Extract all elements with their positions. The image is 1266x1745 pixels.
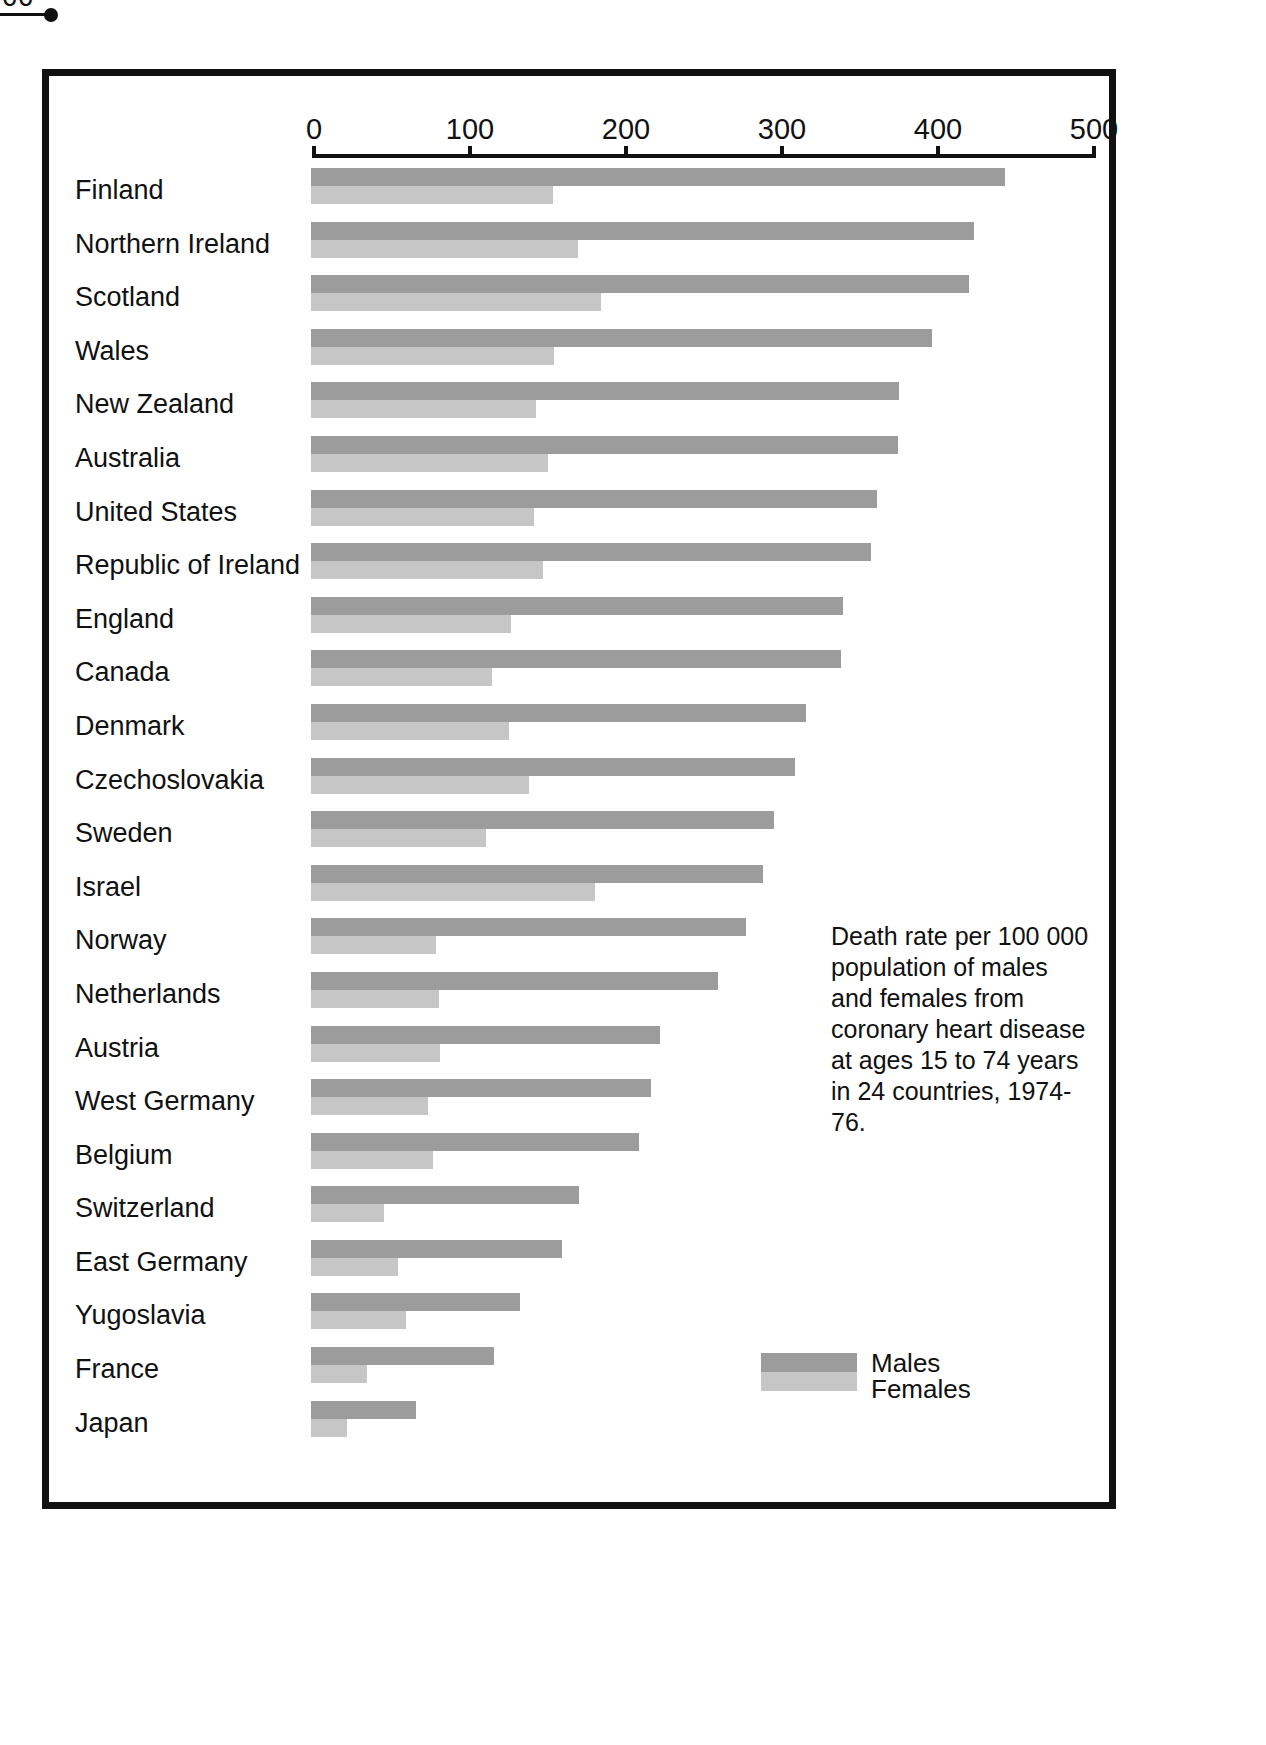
category-label: New Zealand (75, 388, 303, 420)
x-axis-tick (312, 146, 316, 158)
x-axis-tick-label: 100 (446, 113, 494, 146)
bar-females (311, 990, 439, 1008)
bar-females (311, 615, 511, 633)
bar-group (311, 1184, 1109, 1238)
chart-row: Switzerland (49, 1184, 1109, 1238)
bar-females (311, 400, 536, 418)
category-label: Finland (75, 174, 303, 206)
category-label: Belgium (75, 1139, 303, 1171)
bar-males (311, 222, 974, 240)
category-label: Netherlands (75, 978, 303, 1010)
bar-males (311, 972, 718, 990)
bar-chart: 0100200300400500 FinlandNorthern Ireland… (49, 76, 1109, 1502)
bar-females (311, 454, 548, 472)
chart-row: Sweden (49, 809, 1109, 863)
category-label: Norway (75, 924, 303, 956)
bar-males (311, 918, 746, 936)
x-axis-tick (780, 146, 784, 158)
bar-males (311, 436, 898, 454)
bar-females (311, 722, 509, 740)
chart-rows: FinlandNorthern IrelandScotlandWalesNew … (49, 166, 1109, 1502)
x-axis-tick-label: 300 (758, 113, 806, 146)
bar-males (311, 650, 841, 668)
bar-females (311, 1044, 440, 1062)
category-label: England (75, 603, 303, 635)
bar-males (311, 1240, 562, 1258)
figure-frame: 0100200300400500 FinlandNorthern Ireland… (42, 69, 1116, 1509)
x-axis-line (312, 154, 1092, 158)
category-label: Australia (75, 442, 303, 474)
category-label: Denmark (75, 710, 303, 742)
chart-row: Czechoslovakia (49, 756, 1109, 810)
x-axis: 0100200300400500 (49, 76, 1109, 166)
bar-group (311, 1399, 1109, 1453)
chart-row: Australia (49, 434, 1109, 488)
bar-females (311, 293, 601, 311)
page-folio-number: 66 (2, 0, 34, 13)
chart-row: Northern Ireland (49, 220, 1109, 274)
category-label: Czechoslovakia (75, 764, 303, 796)
category-label: France (75, 1353, 303, 1385)
bar-males (311, 811, 774, 829)
bar-males (311, 1186, 579, 1204)
category-label: Austria (75, 1032, 303, 1064)
bar-males (311, 329, 932, 347)
bar-group (311, 756, 1109, 810)
bar-females (311, 1258, 398, 1276)
page-corner-mark: 66 (0, 0, 70, 30)
x-axis-tick (468, 146, 472, 158)
bar-females (311, 1151, 433, 1169)
bar-males (311, 597, 843, 615)
bar-group (311, 595, 1109, 649)
category-label: Canada (75, 656, 303, 688)
legend-swatch-females (761, 1372, 857, 1391)
bar-females (311, 508, 534, 526)
bar-males (311, 490, 877, 508)
bar-group (311, 1345, 1109, 1399)
chart-row: Finland (49, 166, 1109, 220)
bar-group (311, 702, 1109, 756)
x-axis-tick (624, 146, 628, 158)
chart-row: East Germany (49, 1238, 1109, 1292)
category-label: Republic of Ireland (75, 549, 303, 581)
x-axis-tick-label: 400 (914, 113, 962, 146)
corner-dot (44, 8, 58, 22)
bar-group (311, 1291, 1109, 1345)
bar-females (311, 186, 553, 204)
x-axis-tick-label: 0 (306, 113, 322, 146)
category-label: Sweden (75, 817, 303, 849)
category-label: Japan (75, 1407, 303, 1439)
category-label: Yugoslavia (75, 1299, 303, 1331)
x-axis-tick-label: 200 (602, 113, 650, 146)
bar-group (311, 434, 1109, 488)
chart-row: Denmark (49, 702, 1109, 756)
bar-group (311, 1131, 1109, 1185)
bar-group (311, 327, 1109, 381)
chart-row: Israel (49, 863, 1109, 917)
bar-males (311, 704, 806, 722)
bar-females (311, 347, 554, 365)
bar-group (311, 809, 1109, 863)
bar-males (311, 865, 763, 883)
category-label: Northern Ireland (75, 228, 303, 260)
chart-row: Canada (49, 648, 1109, 702)
bar-group (311, 220, 1109, 274)
bar-males (311, 543, 871, 561)
figure-caption: Death rate per 100 000 population of mal… (831, 921, 1093, 1138)
bar-males (311, 382, 899, 400)
bar-females (311, 883, 595, 901)
bar-males (311, 168, 1005, 186)
bar-males (311, 1026, 660, 1044)
chart-row: Japan (49, 1399, 1109, 1453)
bar-females (311, 668, 492, 686)
bar-females (311, 1204, 384, 1222)
bar-group (311, 380, 1109, 434)
category-label: Switzerland (75, 1192, 303, 1224)
chart-row: United States (49, 488, 1109, 542)
bar-group (311, 648, 1109, 702)
bar-females (311, 240, 578, 258)
category-label: West Germany (75, 1085, 303, 1117)
category-label: Wales (75, 335, 303, 367)
category-label: East Germany (75, 1246, 303, 1278)
bar-group (311, 166, 1109, 220)
